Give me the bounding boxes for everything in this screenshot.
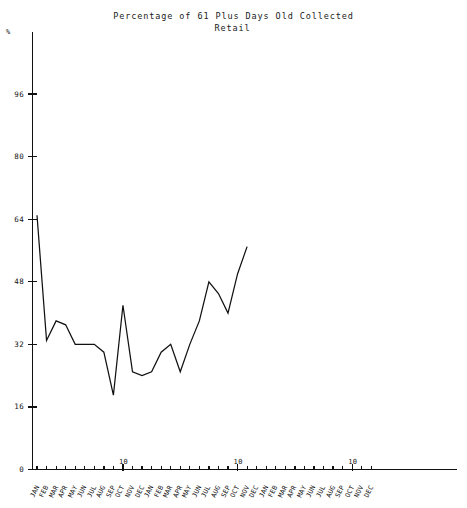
chart-title-block: Percentage of 61 Plus Days Old Collected… xyxy=(0,10,467,34)
x-tick-mark xyxy=(247,466,248,470)
y-tick-mark xyxy=(28,93,37,94)
y-axis-line xyxy=(32,32,33,470)
y-tick-label: 80 xyxy=(0,152,24,161)
x-tick-mark xyxy=(94,466,95,470)
y-tick-label: 32 xyxy=(0,340,24,349)
x-tick-mark xyxy=(84,466,85,470)
x-tick-mark xyxy=(199,466,200,470)
x-tick-mark xyxy=(151,466,152,470)
x-tick-mark xyxy=(304,466,305,470)
x-tick-mark xyxy=(294,466,295,470)
x-axis-decade-tick xyxy=(352,464,353,471)
x-tick-mark xyxy=(170,466,171,470)
x-tick-mark xyxy=(256,466,257,470)
x-tick-mark xyxy=(313,466,314,470)
y-tick-mark xyxy=(28,344,37,345)
y-tick-mark xyxy=(28,281,37,282)
x-tick-mark xyxy=(56,466,57,470)
x-axis-decade-tick xyxy=(122,464,123,471)
chart-title: Percentage of 61 Plus Days Old Collected xyxy=(0,10,467,22)
x-tick-mark xyxy=(141,466,142,470)
x-tick-mark xyxy=(332,466,333,470)
chart-subtitle: Retail xyxy=(0,22,467,34)
x-axis-decade-tick xyxy=(237,464,238,471)
x-tick-mark xyxy=(208,466,209,470)
x-tick-mark xyxy=(285,466,286,470)
x-tick-mark xyxy=(132,466,133,470)
x-tick-mark xyxy=(266,466,267,470)
y-tick-label: 48 xyxy=(0,277,24,286)
x-tick-mark xyxy=(189,466,190,470)
x-tick-mark xyxy=(361,466,362,470)
y-tick-label: 64 xyxy=(0,215,24,224)
series-layer xyxy=(0,0,467,508)
x-tick-mark xyxy=(46,466,47,470)
x-tick-mark xyxy=(180,466,181,470)
x-tick-mark xyxy=(65,466,66,470)
x-tick-mark xyxy=(342,466,343,470)
x-tick-mark xyxy=(36,466,37,470)
x-tick-mark xyxy=(227,466,228,470)
x-tick-mark xyxy=(103,466,104,470)
y-tick-label: 0 xyxy=(0,465,24,474)
x-tick-mark xyxy=(275,466,276,470)
x-tick-mark xyxy=(113,466,114,470)
x-tick-mark xyxy=(218,466,219,470)
series-line-percentage-collected xyxy=(37,215,247,395)
x-tick-mark xyxy=(75,466,76,470)
y-tick-mark xyxy=(28,219,37,220)
x-axis-line xyxy=(32,469,457,470)
x-tick-mark xyxy=(161,466,162,470)
y-tick-label: 16 xyxy=(0,402,24,411)
x-tick-mark xyxy=(323,466,324,470)
x-tick-mark xyxy=(371,466,372,470)
chart-canvas: Percentage of 61 Plus Days Old Collected… xyxy=(0,0,467,508)
y-tick-mark xyxy=(28,406,37,407)
y-tick-mark xyxy=(28,156,37,157)
y-tick-label: 96 xyxy=(0,90,24,99)
y-axis-unit-label: % xyxy=(6,28,10,36)
